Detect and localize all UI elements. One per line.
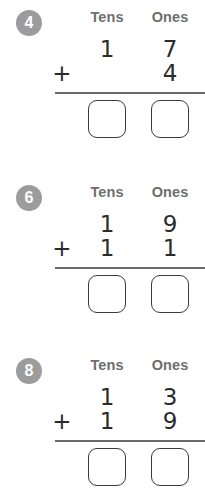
column-header-ones: Ones: [144, 184, 196, 200]
answer-box-tens[interactable]: [88, 275, 126, 313]
addend2-tens-digit: 1: [81, 235, 133, 261]
answer-box-ones[interactable]: [151, 275, 189, 313]
problem-item: 6 Tens Ones 1 9 + 1 1: [0, 175, 205, 320]
addend2-ones-digit: 4: [144, 60, 196, 86]
sum-rule: [55, 440, 205, 442]
sum-rule: [55, 267, 205, 269]
problem-number-badge: 6: [16, 185, 42, 211]
column-header-ones: Ones: [144, 9, 196, 25]
addend1-tens-digit: 1: [81, 36, 133, 62]
plus-sign: +: [52, 235, 72, 261]
problem-item: 8 Tens Ones 1 3 + 1 9: [0, 348, 205, 490]
addend1-ones-digit: 3: [144, 384, 196, 410]
answer-box-tens[interactable]: [88, 100, 126, 138]
plus-sign: +: [52, 408, 72, 434]
addend2-ones-digit: 1: [144, 235, 196, 261]
addend1-tens-digit: 1: [81, 211, 133, 237]
answer-box-ones[interactable]: [151, 100, 189, 138]
addend1-ones-digit: 9: [144, 211, 196, 237]
addend2-tens-digit: 1: [81, 408, 133, 434]
problem-number-badge: 8: [16, 358, 42, 384]
column-header-ones: Ones: [144, 357, 196, 373]
plus-sign: +: [52, 60, 72, 86]
addend2-ones-digit: 9: [144, 408, 196, 434]
addend1-ones-digit: 7: [144, 36, 196, 62]
column-header-tens: Tens: [81, 9, 133, 25]
answer-box-ones[interactable]: [151, 448, 189, 486]
answer-box-tens[interactable]: [88, 448, 126, 486]
problem-number-badge: 4: [16, 10, 42, 36]
column-header-tens: Tens: [81, 184, 133, 200]
column-header-tens: Tens: [81, 357, 133, 373]
sum-rule: [55, 92, 205, 94]
addend1-tens-digit: 1: [81, 384, 133, 410]
problem-item: 4 Tens Ones 1 7 + 4: [0, 0, 205, 145]
